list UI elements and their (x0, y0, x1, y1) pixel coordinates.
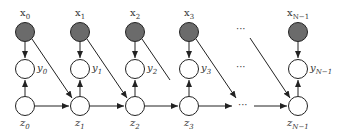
label-y3: y3 (201, 63, 211, 77)
ellipsis-middle: ··· (236, 62, 246, 72)
z-to-y-edges (25, 80, 298, 96)
label-yN-1: yN−1 (310, 63, 332, 77)
label-z0: z0 (20, 118, 30, 132)
ellipsis-bottom: ··· (238, 100, 248, 110)
label-zN-1: zN−1 (287, 118, 309, 132)
label-xN-1: xN−1 (287, 8, 309, 22)
label-x1: x1 (75, 8, 85, 22)
label-x0: x0 (20, 8, 30, 22)
ellipsis-top: ··· (236, 24, 246, 34)
observed-x-nodes (16, 23, 308, 42)
label-y1: y1 (92, 63, 102, 77)
label-y0: y0 (37, 63, 47, 77)
label-z1: z1 (75, 118, 85, 132)
label-z2: z2 (130, 118, 140, 132)
label-x2: x2 (130, 8, 140, 22)
y-nodes (16, 60, 308, 79)
label-x3: x3 (184, 8, 194, 22)
label-z3: z3 (184, 118, 194, 132)
label-y2: y2 (147, 63, 157, 77)
x-to-y-edges (25, 42, 298, 58)
